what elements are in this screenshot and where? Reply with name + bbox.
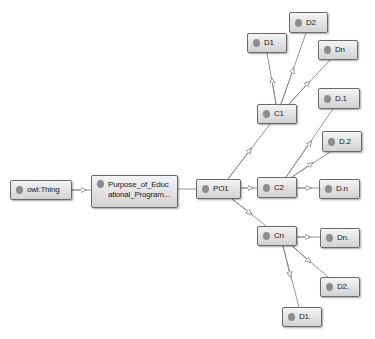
class-icon: [295, 19, 302, 27]
class-icon: [16, 186, 23, 194]
class-icon: [325, 185, 332, 193]
class-icon: [253, 39, 260, 47]
node-label: Dn.: [337, 233, 349, 243]
class-icon: [288, 313, 295, 321]
node-label: D.2: [339, 137, 351, 147]
class-icon: [326, 283, 333, 291]
node-label: D.n: [336, 184, 348, 194]
node-c1-d2[interactable]: D2: [289, 12, 328, 33]
node-owl-thing[interactable]: owl:Thing: [10, 180, 72, 200]
node-po1[interactable]: PO1: [196, 179, 241, 199]
node-c2-d.n[interactable]: D.n: [319, 179, 360, 199]
node-label: Purpose_of_Educ ational_Program...: [108, 180, 177, 200]
node-label: D2.: [337, 282, 349, 292]
node-cn-d2.[interactable]: D2.: [320, 277, 360, 297]
node-cn-d1.[interactable]: D1.: [282, 307, 322, 327]
class-icon: [326, 234, 333, 242]
class-icon: [97, 180, 104, 188]
node-label: Cn: [274, 231, 284, 241]
node-c1[interactable]: C1: [257, 104, 297, 124]
node-purpose-of-educational-program[interactable]: Purpose_of_Educ ational_Program...: [91, 175, 178, 208]
node-c2[interactable]: C2: [257, 177, 297, 198]
node-cn[interactable]: Cn: [257, 226, 297, 246]
node-label: D1: [264, 38, 274, 48]
node-label: C2: [274, 183, 284, 193]
node-label: D2: [306, 18, 316, 28]
node-c2-d.2[interactable]: D.2: [322, 131, 362, 152]
node-c1-d1[interactable]: D1: [247, 33, 287, 53]
class-icon: [263, 232, 270, 240]
node-c1-dn[interactable]: Dn: [318, 40, 358, 60]
class-icon: [328, 138, 335, 146]
class-icon: [202, 185, 209, 193]
class-icon: [263, 184, 270, 192]
node-cn-dn.[interactable]: Dn.: [320, 228, 360, 248]
class-icon: [324, 95, 331, 103]
node-label: Dn: [335, 45, 345, 55]
node-label: D.1: [335, 94, 347, 104]
node-c2-d.1[interactable]: D.1: [318, 88, 360, 109]
ontology-graph-canvas: owl:Thing Purpose_of_Educ ational_Progra…: [0, 0, 375, 339]
class-icon: [324, 46, 331, 54]
class-icon: [263, 110, 270, 118]
node-label: PO1: [213, 184, 228, 194]
node-label: C1: [274, 109, 284, 119]
node-label: D1.: [299, 312, 311, 322]
node-label: owl:Thing: [27, 185, 59, 195]
